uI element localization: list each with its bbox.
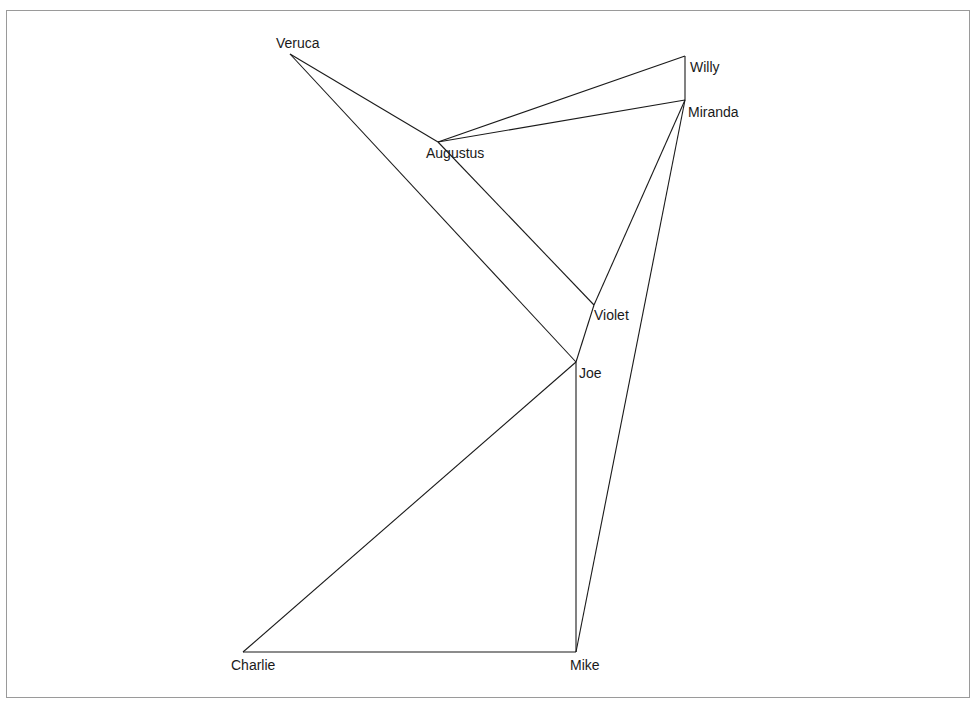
node-label-violet: Violet [594, 307, 629, 323]
edge-joe-charlie [243, 362, 576, 652]
node-label-joe: Joe [579, 365, 602, 381]
edge-miranda-violet [594, 100, 685, 305]
edge-veruca-joe [290, 54, 576, 362]
edge-augustus-miranda [438, 100, 685, 142]
edge-augustus-willy [438, 56, 685, 142]
network-graph: VerucaWillyMirandaAugustusVioletJoeCharl… [0, 0, 980, 709]
node-label-augustus: Augustus [426, 145, 484, 161]
node-label-veruca: Veruca [276, 35, 320, 51]
node-label-charlie: Charlie [231, 657, 276, 673]
figure-caption-clipped [8, 703, 328, 709]
node-label-willy: Willy [690, 59, 720, 75]
graph-edges [243, 54, 685, 652]
graph-labels: VerucaWillyMirandaAugustusVioletJoeCharl… [231, 35, 739, 673]
node-label-miranda: Miranda [688, 104, 739, 120]
node-label-mike: Mike [570, 657, 600, 673]
edge-violet-joe [576, 305, 594, 362]
edge-veruca-augustus [290, 54, 438, 142]
edge-augustus-violet [438, 142, 594, 305]
